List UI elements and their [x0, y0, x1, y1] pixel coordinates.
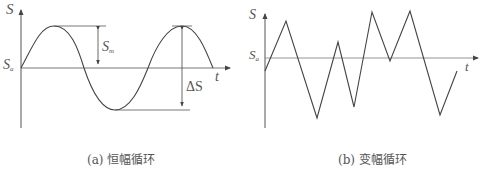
figure-b-random-load-wave: [265, 11, 457, 118]
figure-b-t-axis-label: t: [465, 60, 469, 73]
figure-b-y-axis-label: S: [249, 8, 256, 22]
figure-a-amplitude-sub: m: [109, 47, 114, 55]
cycle-diagrams: [0, 0, 480, 174]
figure-a-y-axis-label: S: [6, 2, 14, 17]
figure-a-amplitude-label: Sm: [102, 40, 114, 55]
figure-a-origin-label: Sa: [3, 58, 14, 73]
figure-a-caption: (a) 恒幅循环: [87, 150, 155, 167]
figure-b-origin-sub: a: [256, 55, 260, 63]
figure-b-variable-amplitude: [265, 11, 478, 128]
figure-a-origin-main: S: [3, 57, 10, 72]
figure-a-amplitude-main: S: [102, 39, 109, 54]
figure-a-t-axis-label: t: [215, 70, 219, 84]
figure-a-origin-sub: a: [10, 65, 14, 73]
figure-a-constant-amplitude: [21, 10, 230, 128]
figure-a-range-label: ΔS: [186, 80, 203, 94]
figure-b-caption: (b) 变幅循环: [338, 150, 407, 167]
figure-b-origin-label: Sa: [249, 48, 259, 63]
